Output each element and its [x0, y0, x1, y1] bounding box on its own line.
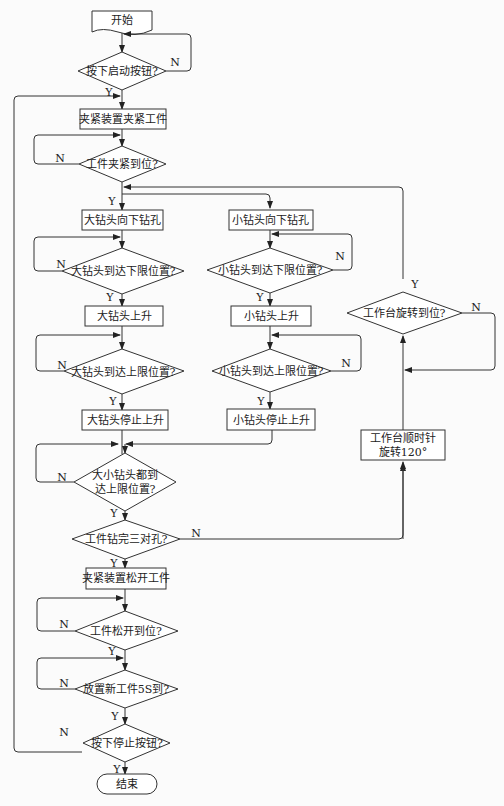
clamp-label: 夹紧装置夹紧工件 [79, 113, 167, 126]
yes-label: Y [108, 645, 115, 658]
yes-label: Y [105, 86, 112, 99]
release-label: 夹紧装置松开工件 [82, 572, 170, 585]
big-up-label: 大钻头上升 [97, 310, 152, 323]
no-label: N [57, 359, 67, 372]
small-down-label: 小钻头向下钻孔 [232, 214, 309, 227]
no-label: N [59, 677, 69, 690]
both-high-label-2: 达上限位置? [95, 483, 156, 496]
yes-label: Y [109, 395, 116, 408]
small-stop-label: 小钻头停止上升 [233, 414, 310, 427]
small-up-label: 小钻头上升 [244, 310, 299, 323]
new-part-label: 放置新工件5S到? [83, 683, 169, 696]
yes-label: Y [106, 291, 113, 304]
small-high-label: 小钻头到达上限位置? [219, 365, 324, 378]
no-label: N [191, 527, 201, 540]
rotate-label-1: 工作台顺时针 [370, 432, 436, 445]
flowchart-canvas [0, 0, 504, 806]
no-label: N [59, 618, 69, 631]
small-low-label: 小钻头到达下限位置? [218, 264, 323, 277]
big-low-label: 大钻头到达下限位置? [71, 265, 176, 278]
no-label: N [335, 250, 345, 263]
no-label: N [56, 258, 66, 271]
no-label: N [55, 152, 65, 165]
start-label: 开始 [111, 14, 133, 27]
yes-label: Y [110, 507, 117, 520]
big-stop-label: 大钻头停止上升 [87, 414, 164, 427]
no-label: N [341, 357, 351, 370]
three-pairs-label: 工件钻完三对孔? [85, 533, 168, 546]
clamped-label: 工件夹紧到位? [86, 158, 158, 171]
yes-label: Y [108, 195, 115, 208]
yes-label: Y [256, 291, 263, 304]
yes-label: Y [113, 763, 120, 776]
yes-label: Y [111, 710, 118, 723]
start-pressed-label: 按下启动按钮? [86, 65, 158, 78]
stop-pressed-label: 按下停止按钮? [91, 737, 163, 750]
both-high-label-1: 大小钻头都到 [92, 469, 158, 482]
yes-label: Y [411, 278, 418, 291]
released-label: 工件松开到位? [90, 625, 162, 638]
table-rotated-label: 工作台旋转到位? [363, 307, 446, 320]
big-high-label: 大钻头到达上限位置? [71, 366, 176, 379]
rotate-label-2: 旋转120° [379, 446, 428, 459]
end-label: 结束 [116, 778, 138, 791]
no-label: N [59, 726, 69, 739]
big-down-label: 大钻头向下钻孔 [84, 214, 161, 227]
yes-label: Y [110, 557, 117, 570]
yes-label: Y [257, 395, 264, 408]
no-label: N [170, 56, 180, 69]
no-label: N [471, 301, 481, 314]
no-label: N [57, 471, 67, 484]
